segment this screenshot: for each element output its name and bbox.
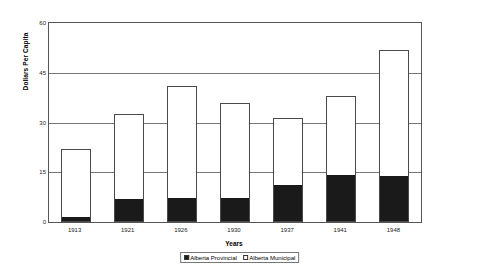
bar-segment-provincial <box>115 199 143 221</box>
x-axis-tick-label: 1941 <box>334 227 347 233</box>
y-axis-tick-label: 15 <box>39 169 46 175</box>
stacked-bar <box>220 103 250 222</box>
legend-label: Alberta Provincial <box>190 255 237 261</box>
legend-swatch-icon <box>184 255 189 260</box>
chart-legend: Alberta ProvincialAlberta Municipal <box>180 252 300 263</box>
bar-segment-municipal <box>327 97 355 177</box>
bar-group <box>326 23 356 222</box>
bar-group <box>61 23 91 222</box>
y-axis-tick-label: 45 <box>39 70 46 76</box>
bar-group <box>114 23 144 222</box>
bar-segment-provincial <box>327 175 355 221</box>
bar-group <box>167 23 197 222</box>
stacked-bar <box>114 114 144 222</box>
bar-segment-municipal <box>168 87 196 200</box>
x-axis-tick-label: 1948 <box>387 227 400 233</box>
bar-group <box>273 23 303 222</box>
bar-group <box>220 23 250 222</box>
bar-segment-municipal <box>274 119 302 187</box>
bar-segment-provincial <box>380 176 408 221</box>
y-axis-tick-label: 0 <box>43 219 46 225</box>
bar-group <box>379 23 409 222</box>
x-axis-tick-label: 1921 <box>121 227 134 233</box>
legend-item: Alberta Provincial <box>184 255 237 261</box>
stacked-bar <box>61 149 91 222</box>
stacked-bar <box>167 86 197 222</box>
bar-segment-provincial <box>168 198 196 221</box>
bar-segment-municipal <box>62 150 90 219</box>
bar-segment-provincial <box>274 185 302 221</box>
x-axis-tick-label: 1930 <box>227 227 240 233</box>
plot-area: 015304560 <box>48 22 422 223</box>
y-axis-title: Dollars Per Capita <box>22 0 29 127</box>
y-axis-tick-label: 30 <box>39 120 46 126</box>
y-axis-tick-label: 60 <box>39 20 46 26</box>
legend-item: Alberta Municipal <box>243 255 296 261</box>
bars-layer <box>49 23 421 222</box>
legend-label: Alberta Municipal <box>249 255 295 261</box>
legend-swatch-icon <box>243 255 248 260</box>
x-axis-tick-label: 1926 <box>174 227 187 233</box>
bar-chart: Dollars Per Capita 015304560 19131921192… <box>0 0 479 277</box>
stacked-bar <box>326 96 356 222</box>
bar-segment-municipal <box>221 104 249 200</box>
stacked-bar <box>379 50 409 222</box>
bar-segment-provincial <box>221 198 249 221</box>
stacked-bar <box>273 118 303 222</box>
x-axis-tick-label: 1913 <box>68 227 81 233</box>
bar-segment-provincial <box>62 217 90 221</box>
x-axis-tick-label: 1937 <box>280 227 293 233</box>
bar-segment-municipal <box>380 51 408 179</box>
bar-segment-municipal <box>115 115 143 201</box>
x-axis-title: Years <box>48 240 420 247</box>
